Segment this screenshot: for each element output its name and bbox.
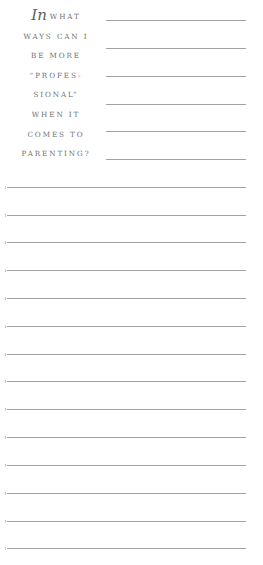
prompt-line-8: parenting? (6, 144, 106, 164)
journal-page: Inwhat ways can I be more “profes- siona… (0, 0, 263, 565)
writing-line-full[interactable] (7, 270, 246, 271)
writing-line-full[interactable] (7, 326, 246, 327)
prompt-line-4: “profes- (6, 66, 106, 86)
prompt-line-6: when it (6, 105, 106, 125)
writing-line-full[interactable] (7, 521, 246, 522)
prompt-line-5: sional” (6, 85, 106, 105)
writing-line-full[interactable] (7, 465, 246, 466)
writing-line-full[interactable] (7, 381, 246, 382)
writing-line-full[interactable] (7, 187, 246, 188)
writing-line-short[interactable] (106, 20, 246, 21)
prompt-line-2: ways can I (6, 27, 106, 47)
writing-line-full[interactable] (7, 354, 246, 355)
writing-line-full[interactable] (7, 437, 246, 438)
prompt-line-1: Inwhat (6, 6, 106, 27)
prompt-text: what (50, 12, 81, 21)
writing-line-full[interactable] (7, 493, 246, 494)
writing-line-short[interactable] (106, 159, 246, 160)
writing-line-full[interactable] (7, 298, 246, 299)
prompt-line-7: comes to (6, 125, 106, 145)
writing-line-short[interactable] (106, 104, 246, 105)
writing-line-short[interactable] (106, 131, 246, 132)
writing-line-full[interactable] (7, 548, 246, 549)
prompt-line-3: be more (6, 46, 106, 66)
prompt-lead-word: In (31, 6, 47, 24)
journal-prompt: Inwhat ways can I be more “profes- siona… (6, 6, 106, 164)
writing-line-full[interactable] (7, 215, 246, 216)
writing-line-short[interactable] (106, 76, 246, 77)
writing-line-short[interactable] (106, 48, 246, 49)
writing-line-full[interactable] (7, 242, 246, 243)
writing-line-full[interactable] (7, 409, 246, 410)
